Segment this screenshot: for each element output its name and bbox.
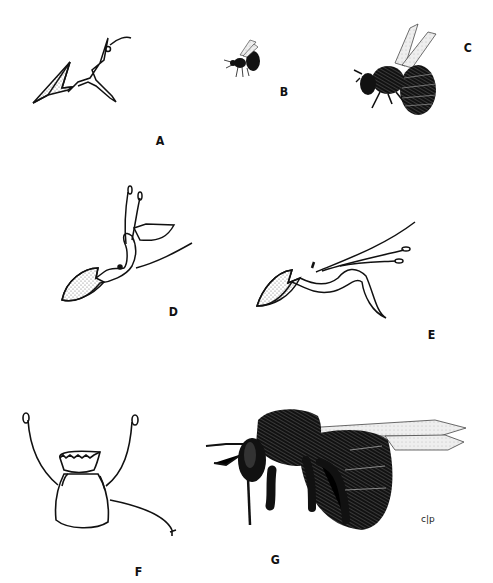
illustration-plate: A B C D E F G c|p <box>0 0 493 583</box>
figure-label-a: A <box>156 133 165 148</box>
figure-label-g: G <box>271 552 280 567</box>
figure-label-f: F <box>135 564 143 579</box>
figure-c-bee <box>354 24 436 115</box>
figure-label-d: D <box>169 304 178 319</box>
figure-f-flower <box>23 413 176 536</box>
figure-g-bee <box>206 409 466 530</box>
figure-d-flower <box>62 186 192 301</box>
figure-label-b: B <box>280 84 288 99</box>
figure-label-c: C <box>464 40 472 55</box>
figure-b-small-bee <box>224 40 260 77</box>
artist-signature: c|p <box>421 514 435 524</box>
figure-a-flower <box>33 37 131 103</box>
plate-drawings <box>0 0 493 583</box>
figure-e-flower <box>257 222 415 318</box>
figure-label-e: E <box>428 327 436 342</box>
